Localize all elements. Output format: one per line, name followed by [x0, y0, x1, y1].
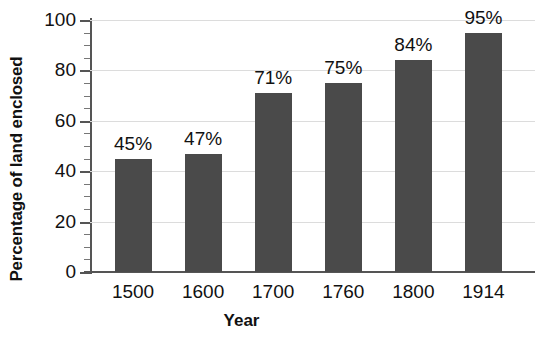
- x-axis-title: Year: [0, 311, 509, 331]
- y-tick-major: [80, 20, 90, 22]
- y-tick-major: [80, 171, 90, 173]
- y-tick-major: [80, 222, 90, 224]
- bar: [325, 83, 362, 272]
- bar-value-label: 71%: [233, 67, 313, 89]
- bar-value-label: 47%: [163, 128, 243, 150]
- bar: [115, 159, 152, 272]
- bar-value-label: 75%: [303, 57, 383, 79]
- bar: [255, 93, 292, 272]
- y-tick-label: 20: [4, 211, 76, 233]
- y-tick-label: 100: [4, 9, 76, 31]
- y-tick-label: 0: [4, 261, 76, 283]
- bar: [465, 33, 502, 272]
- y-tick-label: 60: [4, 110, 76, 132]
- y-tick-major: [80, 121, 90, 123]
- bar: [185, 154, 222, 272]
- x-tick-label: 1914: [438, 281, 528, 303]
- y-tick-major: [80, 70, 90, 72]
- bar-value-label: 95%: [443, 7, 523, 29]
- y-tick-label: 40: [4, 160, 76, 182]
- bar-chart: Percentage of land enclosed 020406080100…: [0, 0, 535, 341]
- bar-value-label: 45%: [93, 133, 173, 155]
- y-tick-label: 80: [4, 59, 76, 81]
- bar-value-label: 84%: [373, 34, 453, 56]
- bar: [395, 60, 432, 272]
